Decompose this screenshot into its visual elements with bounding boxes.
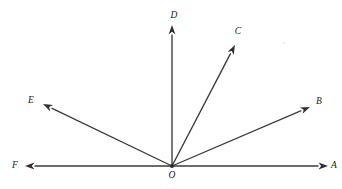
point-label-e: E (27, 95, 34, 105)
ray-oc-arrowhead (228, 45, 235, 55)
point-label-b: B (316, 96, 322, 106)
ray-oe-shaft (52, 108, 172, 166)
ray-oa-arrowhead (319, 163, 329, 170)
point-label-a: A (330, 160, 337, 170)
vertex-point-o (170, 164, 174, 168)
point-label-o: O (168, 170, 175, 180)
ray-of-arrowhead (25, 163, 35, 170)
ray-label-group: ABCDEF (11, 10, 337, 170)
ray-ob-shaft (172, 111, 301, 166)
scan-artifact-speck (283, 42, 285, 44)
ray-od-arrowhead (169, 25, 176, 35)
ray-oc-shaft (172, 53, 231, 166)
point-label-d: D (169, 10, 177, 20)
point-label-f: F (11, 160, 18, 170)
ray-group (25, 25, 328, 169)
geometry-figure: O ABCDEF (0, 0, 342, 189)
point-label-c: C (235, 26, 242, 36)
ray-oe-arrowhead (43, 104, 53, 111)
ray-ob-arrowhead (300, 107, 310, 114)
ray-diagram-canvas: O ABCDEF (0, 0, 342, 189)
